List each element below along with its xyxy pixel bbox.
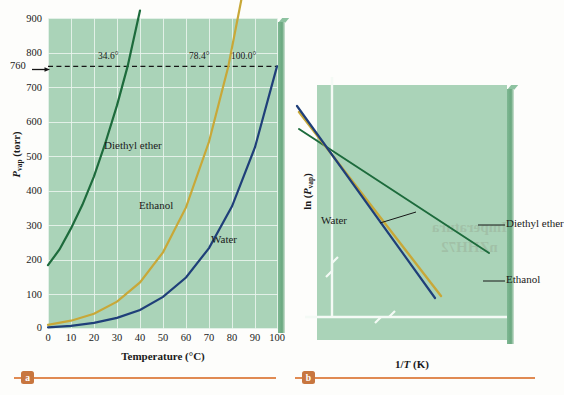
yaxis-label-b: ln (Pvap) xyxy=(302,147,315,237)
curve-label-ethanol-b: Ethanol xyxy=(506,273,540,285)
reference-arrow-icon xyxy=(32,66,50,73)
yaxis-label-b-close: ) xyxy=(302,173,313,177)
curve-label-diethyl-ether-b: Diethyl ether xyxy=(506,217,564,229)
xtick-a-70: 70 xyxy=(198,332,220,343)
curve-label-water-b: Water xyxy=(321,214,347,226)
yaxis-label-a-p: P xyxy=(11,171,22,177)
yaxis-label-a-sub: vap xyxy=(15,159,24,171)
ytick-a-800: 800 xyxy=(8,47,42,58)
plot-area-b: Imperatura nZHH72 xyxy=(317,85,507,340)
curve-label-diethyl-ether: Diethyl ether xyxy=(104,139,162,151)
xaxis-label-b: 1/T (K) xyxy=(317,358,507,370)
plot-area-a xyxy=(48,18,278,329)
yaxis-label-b-ln: ln ( xyxy=(302,195,313,210)
reference-value-760: 760 xyxy=(10,60,26,71)
curve-ethanol xyxy=(48,0,244,325)
xtick-a-30: 30 xyxy=(106,332,128,343)
ytick-a-300: 300 xyxy=(8,220,42,231)
xaxis-label-a: Temperature (°C) xyxy=(48,350,278,362)
curve-water xyxy=(48,66,277,327)
leader-water xyxy=(380,212,416,223)
bp-label-diethyl-ether: 34.6° xyxy=(98,51,118,61)
panel-b-rule xyxy=(295,377,535,379)
line-water-b xyxy=(297,106,435,298)
curve-label-ethanol: Ethanol xyxy=(139,199,173,211)
panel-a-rule xyxy=(14,377,276,379)
xtick-a-60: 60 xyxy=(175,332,197,343)
bp-label-ethanol: 78.4° xyxy=(189,51,209,61)
xtick-a-10: 10 xyxy=(60,332,82,343)
curves-a xyxy=(48,18,278,329)
xtick-a-100: 100 xyxy=(266,332,288,343)
panel-a: 900 800 700 600 500 400 300 200 100 0 0 … xyxy=(0,0,290,395)
xtick-a-0: 0 xyxy=(37,332,59,343)
yaxis-label-a: Pvap (torr) xyxy=(11,112,24,198)
yaxis-label-a-unit: (torr) xyxy=(11,132,22,160)
panel-marker-b: b xyxy=(302,371,315,384)
curves-b xyxy=(317,85,507,340)
xtick-a-40: 40 xyxy=(129,332,151,343)
bp-label-water: 100.0° xyxy=(231,51,256,61)
curve-label-water: Water xyxy=(211,233,237,245)
curve-diethyl-ether xyxy=(48,11,140,266)
yaxis-label-b-sub: vap xyxy=(306,177,315,189)
panel-marker-a: a xyxy=(21,371,34,384)
xtick-a-20: 20 xyxy=(83,332,105,343)
xtick-a-50: 50 xyxy=(152,332,174,343)
ytick-a-900: 900 xyxy=(8,13,42,24)
xtick-a-80: 80 xyxy=(221,332,243,343)
xaxis-label-b-pre: 1/ xyxy=(395,358,404,370)
yaxis-label-b-p: P xyxy=(302,188,313,194)
panel-b: Imperatura nZHH72 xyxy=(290,0,542,395)
ytick-a-700: 700 xyxy=(8,82,42,93)
plot-a-edge xyxy=(278,22,285,333)
ytick-a-200: 200 xyxy=(8,254,42,265)
xaxis-label-b-unit: (K) xyxy=(410,358,429,370)
xtick-a-90: 90 xyxy=(244,332,266,343)
ytick-a-100: 100 xyxy=(8,289,42,300)
